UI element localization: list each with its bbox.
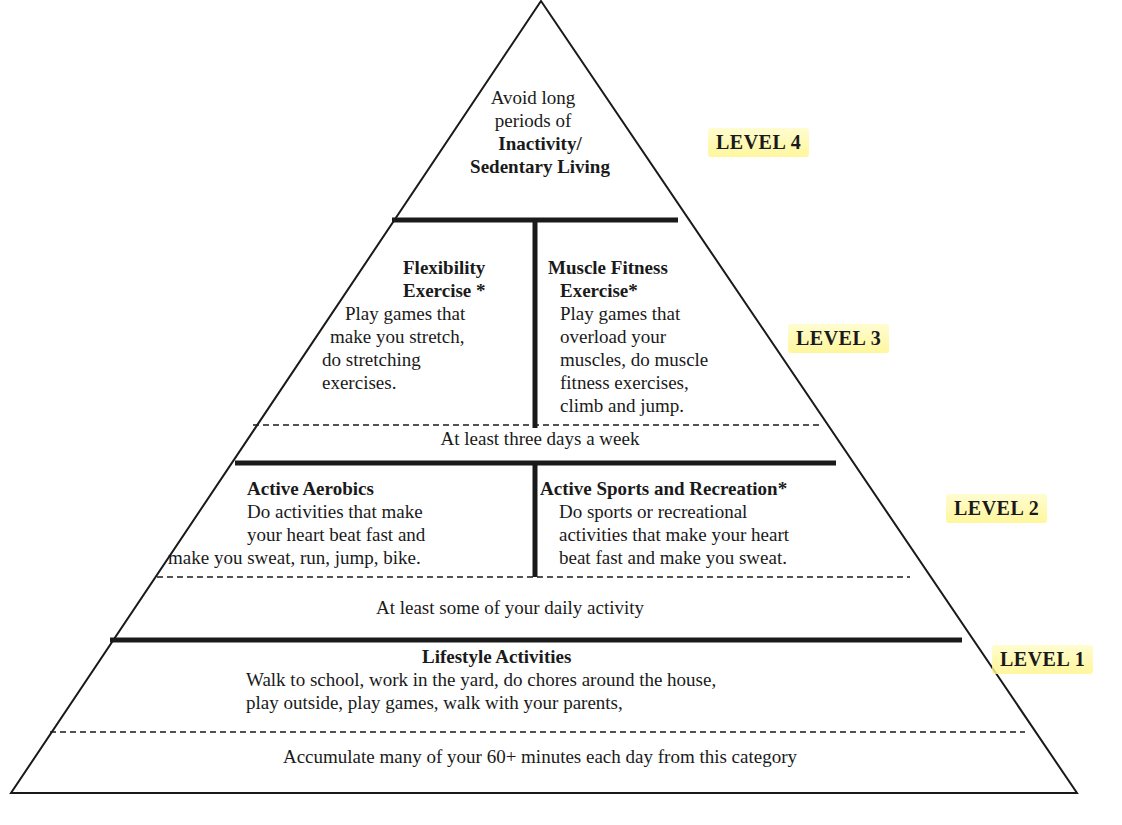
lifestyle-activities-block: Lifestyle Activities Walk to school, wor… bbox=[246, 645, 926, 714]
flexibility-body-2: make you stretch, bbox=[320, 325, 525, 348]
active-sports-recreation-block: Active Sports and Recreation* Do sports … bbox=[540, 477, 900, 569]
flexibility-body-4: exercises. bbox=[320, 371, 525, 394]
active-aerobics-title: Active Aerobics bbox=[164, 477, 529, 500]
flexibility-exercise-block: Flexibility Exercise * Play games that m… bbox=[320, 256, 525, 394]
level-1-frequency: Accumulate many of your 60+ minutes each… bbox=[120, 745, 960, 768]
level-1-label: LEVEL 1 bbox=[992, 645, 1093, 674]
muscle-fitness-exercise-block: Muscle Fitness Exercise* Play games that… bbox=[548, 256, 788, 417]
active-sports-body-3: beat fast and make you sweat. bbox=[540, 546, 900, 569]
level-3-label: LEVEL 3 bbox=[788, 324, 889, 353]
muscle-fitness-body-5: climb and jump. bbox=[548, 394, 788, 417]
active-sports-body-1: Do sports or recreational bbox=[540, 500, 900, 523]
lifestyle-body-1: Walk to school, work in the yard, do cho… bbox=[246, 668, 926, 691]
level-4-label: LEVEL 4 bbox=[708, 128, 809, 157]
flexibility-title-1: Flexibility bbox=[320, 256, 525, 279]
active-aerobics-body-2: your heart beat fast and bbox=[164, 523, 529, 546]
level-4-line-2: periods of bbox=[440, 109, 640, 132]
active-aerobics-body-1: Do activities that make bbox=[164, 500, 529, 523]
level-4-line-1: Avoid long bbox=[440, 86, 640, 109]
muscle-fitness-body-4: fitness exercises, bbox=[548, 371, 788, 394]
muscle-fitness-body-2: overload your bbox=[548, 325, 788, 348]
flexibility-body-3: do stretching bbox=[320, 348, 525, 371]
active-aerobics-block: Active Aerobics Do activities that make … bbox=[164, 477, 529, 569]
level-2-label: LEVEL 2 bbox=[946, 494, 1047, 523]
flexibility-body-1: Play games that bbox=[320, 302, 525, 325]
muscle-fitness-body-1: Play games that bbox=[548, 302, 788, 325]
level-4-bold-line-2: Sedentary Living bbox=[440, 155, 640, 178]
level-4-text: Avoid long periods of Inactivity/ Sedent… bbox=[440, 86, 640, 178]
active-sports-title: Active Sports and Recreation* bbox=[540, 477, 900, 500]
muscle-fitness-body-3: muscles, do muscle bbox=[548, 348, 788, 371]
level-2-frequency: At least some of your daily activity bbox=[200, 596, 820, 619]
active-sports-body-2: activities that make your heart bbox=[540, 523, 900, 546]
lifestyle-activities-title: Lifestyle Activities bbox=[246, 645, 926, 668]
lifestyle-body-2: play outside, play games, walk with your… bbox=[246, 691, 926, 714]
level-4-bold-line-1: Inactivity/ bbox=[440, 132, 640, 155]
active-aerobics-body-3: make you sweat, run, jump, bike. bbox=[164, 546, 529, 569]
muscle-fitness-title-1: Muscle Fitness bbox=[548, 256, 788, 279]
level-3-frequency: At least three days a week bbox=[300, 427, 780, 450]
flexibility-title-2: Exercise * bbox=[320, 279, 525, 302]
muscle-fitness-title-2: Exercise* bbox=[548, 279, 788, 302]
